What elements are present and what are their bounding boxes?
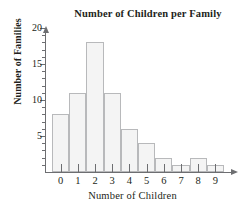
y-tick-label: 5 — [37, 131, 42, 141]
x-tick-label: 1 — [75, 175, 80, 187]
bar — [69, 93, 86, 172]
y-axis-title: Number of Families — [12, 2, 23, 122]
bar — [104, 93, 121, 172]
x-tick-label: 0 — [58, 175, 63, 187]
x-tick-label: 8 — [196, 175, 201, 187]
x-tick — [95, 164, 96, 172]
y-tick-label: 15 — [32, 59, 42, 69]
x-tick — [61, 164, 62, 172]
chart-title: Number of Children per Family — [58, 8, 238, 20]
x-tick — [198, 164, 199, 172]
x-tick-label: 9 — [213, 175, 218, 187]
x-tick — [112, 164, 113, 172]
x-tick-label: 5 — [144, 175, 149, 187]
x-tick — [147, 164, 148, 172]
x-tick-label: 6 — [161, 175, 166, 187]
bar-series — [45, 24, 233, 172]
x-tick — [78, 164, 79, 172]
plot-area: 5101520 0123456789 — [44, 24, 240, 176]
x-tick — [164, 164, 165, 172]
y-tick-label: 10 — [32, 95, 42, 105]
histogram-figure: Number of Children per Family Number of … — [0, 0, 245, 212]
x-tick — [181, 164, 182, 172]
x-tick-label: 3 — [110, 175, 115, 187]
x-tick-label: 2 — [92, 175, 97, 187]
x-axis-title: Number of Children — [40, 190, 225, 201]
x-tick — [129, 164, 130, 172]
x-tick — [215, 164, 216, 172]
bar — [86, 42, 103, 172]
x-tick-label: 4 — [127, 175, 132, 187]
y-tick-label: 20 — [32, 23, 42, 33]
x-tick-label: 7 — [178, 175, 183, 187]
